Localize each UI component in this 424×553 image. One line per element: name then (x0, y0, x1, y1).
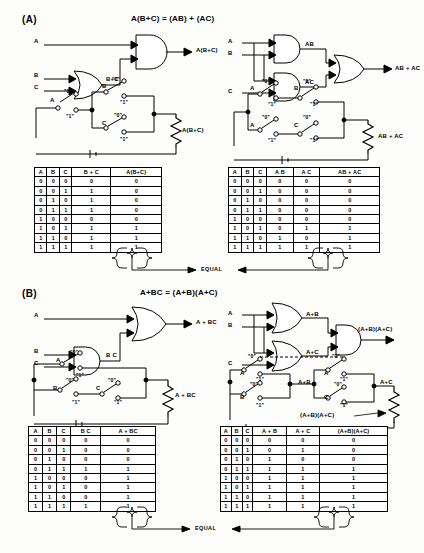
table-cell: 1 (293, 224, 320, 233)
switch-label-a: A (250, 85, 255, 91)
table-cell: 1 (320, 233, 380, 242)
table-row: 000000 (221, 436, 388, 445)
gate-intermediate-bc: B C (106, 352, 117, 358)
table-cell: 0 (35, 186, 47, 195)
table-cell: 1 (320, 224, 380, 233)
switch-circuit-b-left (28, 360, 218, 422)
equal-connector-b (34, 505, 384, 541)
table-cell: 1 (29, 474, 43, 483)
table-row: 110101 (229, 233, 380, 242)
table-cell: 0 (111, 186, 162, 195)
table-cell: 0 (29, 464, 43, 473)
table-row: 010100 (221, 455, 388, 464)
switch-pos-1: "1" (310, 137, 318, 143)
table-cell: 0 (229, 205, 242, 214)
table-cell: 0 (57, 436, 71, 445)
section-b-equation: A+BC = (A+B)(A+C) (140, 288, 218, 297)
table-cell: 0 (43, 483, 57, 492)
table-row: 00000 (29, 436, 156, 445)
col-header: A + C (286, 427, 319, 436)
table-cell: 0 (47, 215, 59, 224)
table-cell: 1 (320, 492, 388, 501)
table-cell: 0 (293, 177, 320, 186)
table-cell: 0 (101, 445, 156, 454)
table-row: 10001 (29, 474, 156, 483)
table-cell: 0 (72, 215, 111, 224)
table-cell: 0 (47, 224, 59, 233)
col-header: A (221, 427, 232, 436)
table-cell: 0 (293, 196, 320, 205)
col-header: C (59, 168, 71, 177)
col-header: B (231, 427, 242, 436)
col-header: A (29, 427, 43, 436)
col-header: C (242, 427, 253, 436)
switch-pos-0: "0" (66, 377, 74, 383)
gate-input-a: A (228, 38, 233, 44)
table-cell: 1 (101, 474, 156, 483)
table-cell: 0 (253, 436, 286, 445)
switch-label-c: C (294, 122, 299, 128)
truth-table-a-right: A B C A B A C AB + AC 000000001000010000… (228, 167, 380, 253)
table-cell: 1 (253, 474, 286, 483)
table-cell: 1 (59, 186, 71, 195)
table-cell: 0 (241, 177, 254, 186)
gate-input-a: A (34, 38, 39, 44)
table-cell: 0 (241, 224, 254, 233)
block-label-apb: A+B (298, 379, 311, 385)
table-cell: 0 (221, 445, 232, 454)
table-row: 011111 (221, 464, 388, 473)
table-cell: 1 (320, 474, 388, 483)
table-cell: 1 (253, 455, 286, 464)
equal-label-b: EQUAL (193, 525, 218, 531)
gate-output-abc: A(B+C) (196, 47, 218, 53)
table-cell: 0 (293, 186, 320, 195)
table-cell: 0 (71, 436, 101, 445)
table-cell: 1 (241, 205, 254, 214)
table-cell: 1 (221, 483, 232, 492)
table-cell: 0 (242, 492, 253, 501)
table-cell: 0 (59, 177, 71, 186)
switch-pos-0: "0" (70, 349, 78, 355)
table-cell: 0 (57, 455, 71, 464)
table-cell: 0 (59, 215, 71, 224)
table-header-row: A B C B + C A(B+C) (35, 168, 162, 177)
table-cell: 1 (72, 205, 111, 214)
table-cell: 0 (320, 436, 388, 445)
switch-pos-0: "0" (334, 381, 342, 387)
table-cell: 0 (242, 436, 253, 445)
table-cell: 1 (242, 445, 253, 454)
table-row: 011000 (229, 205, 380, 214)
table-cell: 0 (267, 177, 294, 186)
table-cell: 0 (29, 445, 43, 454)
table-cell: 1 (72, 196, 111, 205)
table-cell: 1 (286, 464, 319, 473)
switch-pos-0: "0" (332, 353, 340, 359)
col-header: B (241, 168, 254, 177)
switch-label-b: B (240, 394, 245, 400)
table-cell: 1 (254, 205, 267, 214)
col-header: C (254, 168, 267, 177)
switch-output-a-bc: A + BC (175, 392, 196, 398)
table-cell: 0 (29, 436, 43, 445)
col-header: A + BC (101, 427, 156, 436)
table-cell: 1 (229, 215, 242, 224)
truth-table-b-left: A B C B C A + BC 00000001000100001111100… (28, 426, 156, 512)
block-label-apc: A+C (380, 379, 393, 385)
switch-output-apb-apc: (A+B)(A+C) (300, 412, 334, 418)
gate-output-a-bc: A + BC (196, 319, 217, 325)
table-cell: 0 (267, 224, 294, 233)
table-cell: 0 (293, 233, 320, 242)
table-cell: 1 (242, 483, 253, 492)
table-cell: 0 (29, 455, 43, 464)
table-cell: 1 (47, 233, 59, 242)
table-cell: 1 (111, 233, 162, 242)
table-cell: 0 (231, 436, 242, 445)
table-cell: 1 (286, 474, 319, 483)
gate-output-apb-apc: (A+B)(A+C) (358, 326, 392, 332)
col-header: A (229, 168, 242, 177)
table-cell: 1 (47, 205, 59, 214)
col-header: AB + AC (320, 168, 380, 177)
table-cell: 1 (35, 224, 47, 233)
gate-output-ab-ac: AB + AC (395, 65, 420, 71)
truth-table-b-right: A B C A + B A + C (A+B)(A+C) 00000000101… (220, 426, 388, 512)
